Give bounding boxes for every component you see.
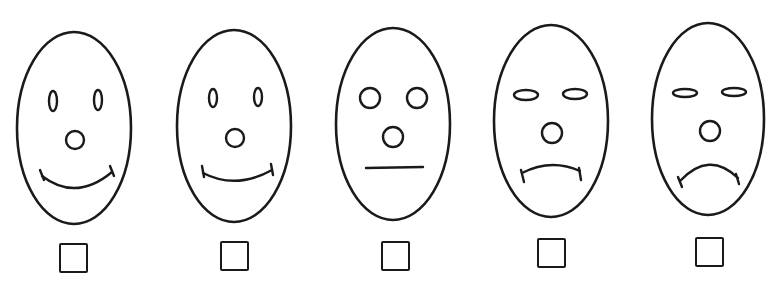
head-outline xyxy=(494,25,608,217)
nose-icon xyxy=(66,131,84,149)
mouth-corner-tick xyxy=(202,166,204,177)
face-happy-icon xyxy=(177,30,291,222)
head-outline xyxy=(652,23,764,215)
face-very-happy-icon xyxy=(17,32,131,224)
head-outline xyxy=(177,30,291,222)
checkbox-very-happy[interactable] xyxy=(59,243,88,273)
mouth-corner-tick xyxy=(579,168,581,180)
nose-icon xyxy=(383,127,403,147)
right-eye-icon xyxy=(407,88,427,108)
face-sad-icon xyxy=(494,25,608,217)
left-eye-icon xyxy=(360,88,380,108)
nose-icon xyxy=(700,121,720,141)
right-eye-icon xyxy=(94,90,102,110)
mouth-frown-icon xyxy=(680,165,738,181)
left-eye-icon xyxy=(209,89,217,107)
nose-icon xyxy=(226,129,244,147)
mouth-corner-tick xyxy=(271,164,273,175)
left-eye-icon xyxy=(49,91,57,111)
right-eye-icon xyxy=(563,89,587,99)
checkbox-happy[interactable] xyxy=(220,241,249,271)
nose-icon xyxy=(542,123,562,143)
checkbox-very-sad[interactable] xyxy=(695,237,724,267)
face-very-sad-icon xyxy=(652,23,764,215)
face-neutral-icon xyxy=(336,28,450,220)
left-eye-icon xyxy=(514,90,538,100)
left-eye-icon xyxy=(673,89,697,97)
mouth-corner-tick xyxy=(40,170,44,180)
head-outline xyxy=(17,32,131,224)
face-rating-scale xyxy=(0,0,778,285)
mouth-straight-icon xyxy=(366,167,423,168)
right-eye-icon xyxy=(254,88,262,106)
mouth-smile-icon xyxy=(42,172,112,188)
mouth-frown-icon xyxy=(522,165,580,173)
mouth-smile-icon xyxy=(203,170,272,181)
mouth-corner-tick xyxy=(736,174,739,184)
checkbox-neutral[interactable] xyxy=(381,241,410,271)
right-eye-icon xyxy=(722,88,746,96)
head-outline xyxy=(336,28,450,220)
checkbox-sad[interactable] xyxy=(537,238,566,268)
